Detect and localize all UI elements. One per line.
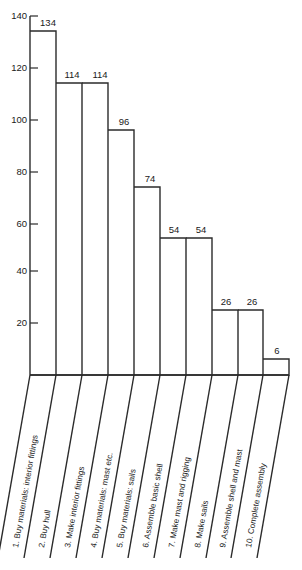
category-label: 6. Assemble basic shell	[141, 463, 165, 549]
y-tick-label: 140	[11, 10, 27, 21]
bars	[30, 31, 289, 375]
chart-canvas: 140 120 100 80 60 40 20 134 114 114 96	[0, 0, 302, 570]
bar	[108, 130, 134, 375]
bar-value-label: 54	[169, 224, 180, 235]
category-label: 7. Make mast and rigging	[167, 456, 192, 549]
y-tick-label: 120	[11, 62, 27, 73]
bar-value-label: 74	[145, 173, 156, 184]
bar-value-label: 96	[119, 116, 130, 127]
bar-value-label: 26	[247, 296, 258, 307]
bar	[134, 187, 160, 375]
y-tick-label: 40	[16, 265, 27, 276]
category-label: 10. Complete assembly	[244, 462, 268, 549]
bar-value-label: 54	[196, 224, 207, 235]
y-axis-tick-labels: 140 120 100 80 60 40 20	[11, 10, 27, 328]
bar	[263, 359, 289, 375]
bar-value-label: 134	[40, 17, 56, 28]
bar	[56, 83, 82, 375]
category-label: 8. Make sails	[193, 500, 210, 549]
bar	[82, 83, 108, 375]
category-label: 2. Buy hull	[37, 509, 53, 548]
y-tick-label: 20	[16, 317, 27, 328]
bar	[160, 238, 186, 375]
y-tick-label: 80	[16, 166, 27, 177]
bar-value-label: 26	[221, 296, 232, 307]
category-label: 3. Make interior fittings	[63, 466, 86, 549]
y-axis-ticks	[30, 16, 38, 323]
bar-value-label: 114	[92, 69, 107, 80]
bar-chart: 140 120 100 80 60 40 20 134 114 114 96	[0, 0, 302, 570]
bar-value-label: 6	[274, 345, 279, 356]
bar-value-label: 114	[64, 69, 79, 80]
category-label: 4. Buy materials: mast etc.	[89, 452, 115, 549]
category-label: 5. Buy materials: sails	[115, 468, 138, 548]
y-tick-label: 60	[16, 218, 27, 229]
bar	[212, 310, 238, 375]
bar	[186, 238, 212, 375]
bar	[238, 310, 263, 375]
y-tick-label: 100	[11, 114, 27, 125]
